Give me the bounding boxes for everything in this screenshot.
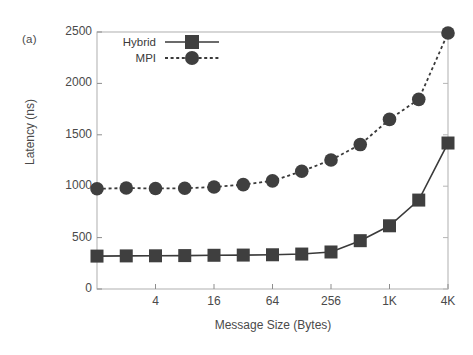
data-point-hybrid [178, 249, 191, 262]
legend: Hybrid MPI [108, 34, 221, 66]
data-point-mpi [383, 113, 397, 127]
data-point-mpi [441, 26, 455, 40]
data-point-hybrid [266, 248, 279, 261]
legend-item-hybrid: Hybrid [108, 34, 221, 50]
data-point-hybrid [383, 219, 396, 232]
data-point-hybrid [120, 249, 133, 262]
data-point-hybrid [91, 250, 104, 263]
series-line-hybrid [97, 143, 448, 256]
legend-item-mpi: MPI [108, 50, 221, 66]
data-point-mpi [353, 138, 367, 152]
data-point-mpi [149, 182, 163, 196]
figure-panel-a: (a) Latency (ns) Message Size (Bytes) 05… [0, 0, 473, 355]
data-point-hybrid [208, 249, 221, 262]
data-point-hybrid [412, 194, 425, 207]
data-point-hybrid [295, 248, 308, 261]
data-point-mpi [207, 180, 221, 194]
data-point-hybrid [237, 249, 250, 262]
legend-label-mpi: MPI [108, 52, 163, 64]
data-point-mpi [178, 181, 192, 195]
data-point-hybrid [149, 249, 162, 262]
data-point-mpi [119, 181, 133, 195]
data-point-mpi [412, 93, 426, 107]
data-point-hybrid [354, 234, 367, 247]
plot-canvas [0, 0, 473, 355]
legend-swatch-hybrid-square-marker [163, 34, 221, 50]
data-point-mpi [236, 178, 250, 192]
data-point-mpi [266, 174, 280, 188]
data-point-mpi [324, 153, 338, 167]
data-point-hybrid [442, 137, 455, 150]
data-point-mpi [90, 182, 104, 196]
legend-swatch-mpi-circle-marker [163, 50, 221, 66]
data-point-mpi [295, 164, 309, 178]
legend-label-hybrid: Hybrid [108, 36, 163, 48]
data-point-hybrid [325, 245, 338, 258]
